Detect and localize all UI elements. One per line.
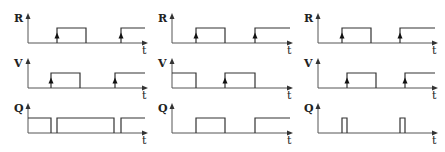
rising-edge-arrow-icon [398,33,403,39]
signal-label: V [157,57,167,70]
time-label: t [287,44,292,57]
rising-edge-arrow-icon [253,33,258,39]
time-label: t [142,44,147,57]
signal-label: V [303,57,313,70]
rising-edge-arrow-icon [223,78,228,84]
signal-label: Q [304,102,314,115]
pulse [172,73,196,88]
pulse [255,28,290,43]
y-axis-arrow-icon [26,13,31,19]
pulse [196,28,225,43]
time-label: t [432,134,437,147]
y-axis-arrow-icon [170,103,175,109]
signal-r: Rt [304,12,438,57]
time-label: t [287,89,292,102]
signal-v: Vt [157,57,293,102]
y-axis-arrow-icon [316,103,321,109]
rising-edge-arrow-icon [403,78,408,84]
time-label: t [432,89,437,102]
rising-edge-arrow-icon [113,78,118,84]
signal-label: Q [158,102,168,115]
rising-edge-arrow-icon [345,78,350,84]
pulse [121,118,145,133]
signal-r: Rt [14,12,148,57]
pulse [196,118,225,133]
time-label: t [142,134,147,147]
panel-1: RtVtQt [13,12,148,147]
signal-v: Vt [13,57,148,102]
rising-edge-arrow-icon [194,33,199,39]
signal-label: R [304,12,314,25]
timing-diagram: RtVtQtRtVtQtRtVtQt [0,0,445,152]
pulse [57,28,86,43]
rising-edge-arrow-icon [119,33,124,39]
y-axis-arrow-icon [170,58,175,64]
signal-q: Qt [304,102,438,147]
panel-2: RtVtQt [157,12,293,147]
pulse [347,73,376,88]
y-axis-arrow-icon [26,58,31,64]
time-label: t [432,44,437,57]
pulse [225,73,255,88]
y-axis-arrow-icon [170,13,175,19]
pulse [405,73,435,88]
rising-edge-arrow-icon [340,33,345,39]
signal-label: R [14,12,24,25]
pulse [400,28,435,43]
signal-label: V [13,57,23,70]
pulse [255,118,290,133]
y-axis-arrow-icon [316,13,321,19]
rising-edge-arrow-icon [55,33,60,39]
pulse [400,118,405,133]
rising-edge-arrow-icon [49,78,54,84]
pulse [57,118,114,133]
signal-q: Qt [158,102,293,147]
signal-v: Vt [303,57,438,102]
time-label: t [287,134,292,147]
signal-label: R [158,12,168,25]
time-label: t [142,89,147,102]
signal-r: Rt [158,12,293,57]
panel-3: RtVtQt [303,12,438,147]
pulse [115,73,145,88]
pulse [121,28,145,43]
signal-label: Q [14,102,24,115]
pulse [342,28,371,43]
y-axis-arrow-icon [26,103,31,109]
pulse [342,118,347,133]
pulse [28,118,51,133]
signal-q: Qt [14,102,148,147]
y-axis-arrow-icon [316,58,321,64]
pulse [51,73,80,88]
